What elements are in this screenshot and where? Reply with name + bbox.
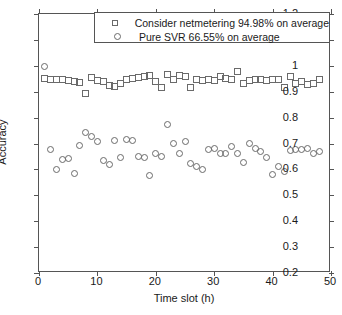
y-tick-right xyxy=(329,221,334,222)
data-point-netmetering xyxy=(275,76,282,83)
y-tick-right xyxy=(329,169,334,170)
x-tick-label: 30 xyxy=(207,276,219,287)
data-point-pure-svr xyxy=(222,150,229,157)
y-tick-right xyxy=(329,92,334,93)
y-tick-right xyxy=(329,144,334,145)
data-point-pure-svr xyxy=(141,154,148,161)
x-axis-title: Time slot (h) xyxy=(154,292,215,304)
data-point-pure-svr xyxy=(176,150,183,157)
data-point-pure-svr xyxy=(182,138,189,145)
data-point-netmetering xyxy=(76,79,83,86)
y-tick-label: 0.3 xyxy=(283,241,298,252)
data-point-pure-svr xyxy=(94,138,101,145)
data-point-netmetering xyxy=(316,76,323,83)
legend-label-netmetering: Consider netmetering 94.98% on average xyxy=(135,17,329,29)
y-tick-label: 0.8 xyxy=(283,111,298,122)
data-point-pure-svr xyxy=(106,161,113,168)
legend-entry-pure-svr: Pure SVR 66.55% on average xyxy=(95,30,329,43)
y-tick-right xyxy=(329,118,334,119)
data-point-pure-svr xyxy=(199,166,206,173)
x-tick-top xyxy=(39,9,40,14)
x-tick-label: 50 xyxy=(324,276,336,287)
y-tick xyxy=(34,247,39,248)
data-point-pure-svr xyxy=(129,137,136,144)
x-tick-label: 40 xyxy=(265,276,277,287)
data-point-netmetering xyxy=(187,84,194,91)
data-point-pure-svr xyxy=(240,159,247,166)
data-point-pure-svr xyxy=(117,154,124,161)
y-tick xyxy=(34,144,39,145)
x-tick-label: 10 xyxy=(90,276,102,287)
data-point-pure-svr xyxy=(164,121,171,128)
y-tick-label: 0.7 xyxy=(283,137,298,148)
data-point-netmetering xyxy=(228,76,235,83)
y-tick xyxy=(34,66,39,67)
data-point-pure-svr xyxy=(53,166,60,173)
data-point-pure-svr xyxy=(76,142,83,149)
y-tick-label: 0.4 xyxy=(283,215,298,226)
data-point-netmetering xyxy=(82,90,89,97)
figure: Accuracy Time slot (h) 0.20.30.40.50.60.… xyxy=(0,0,342,315)
data-point-netmetering xyxy=(158,84,165,91)
data-point-pure-svr xyxy=(111,137,118,144)
x-tick-label: 0 xyxy=(35,276,41,287)
legend: Consider netmetering 94.98% on average P… xyxy=(94,12,330,43)
data-point-pure-svr xyxy=(316,148,323,155)
y-tick xyxy=(34,14,39,15)
data-point-pure-svr xyxy=(234,150,241,157)
data-point-pure-svr xyxy=(71,170,78,177)
data-point-pure-svr xyxy=(41,63,48,70)
y-tick-label: 0.2 xyxy=(283,267,298,278)
data-point-pure-svr xyxy=(65,155,72,162)
y-tick xyxy=(34,92,39,93)
data-point-pure-svr xyxy=(170,140,177,147)
y-tick-label: 0.9 xyxy=(283,85,298,96)
legend-entry-netmetering: Consider netmetering 94.98% on average xyxy=(95,16,329,29)
legend-label-pure-svr: Pure SVR 66.55% on average xyxy=(139,31,280,43)
data-point-netmetering xyxy=(182,73,189,80)
y-tick xyxy=(34,195,39,196)
y-tick xyxy=(34,169,39,170)
legend-circle-marker-icon xyxy=(95,33,139,40)
data-point-pure-svr xyxy=(228,143,235,150)
data-point-netmetering xyxy=(234,68,241,75)
legend-square-marker-icon xyxy=(95,20,135,26)
y-tick-right xyxy=(329,195,334,196)
data-point-pure-svr xyxy=(47,146,54,153)
data-point-pure-svr xyxy=(263,154,270,161)
data-point-pure-svr xyxy=(158,153,165,160)
y-tick-right xyxy=(329,247,334,248)
data-point-pure-svr xyxy=(269,171,276,178)
y-tick-right xyxy=(329,66,334,67)
y-tick-label: 1 xyxy=(292,59,298,70)
x-tick-top xyxy=(331,9,332,14)
data-point-pure-svr xyxy=(146,172,153,179)
y-tick xyxy=(34,40,39,41)
y-tick xyxy=(34,118,39,119)
y-axis-title: Accuracy xyxy=(0,119,8,164)
x-tick-label: 20 xyxy=(149,276,161,287)
data-point-pure-svr xyxy=(257,148,264,155)
y-tick-label: 0.5 xyxy=(283,189,298,200)
y-tick xyxy=(34,221,39,222)
y-tick-label: 0.6 xyxy=(283,163,298,174)
